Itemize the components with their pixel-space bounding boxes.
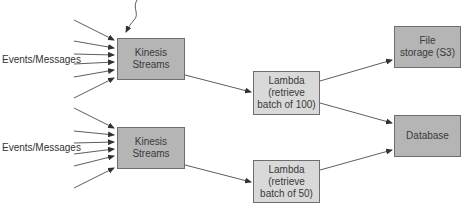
kinesis-streams-node-1: Kinesis Streams [117, 38, 185, 80]
lambda-node-2: Lambda (retrieve batch of 50) [253, 160, 320, 203]
events-messages-label-2: Events/Messages [2, 142, 81, 153]
kinesis-streams-node-2: Kinesis Streams [117, 127, 185, 169]
file-storage-label: File storage (S3) [400, 35, 455, 59]
database-label: Database [406, 130, 449, 142]
lambda-label-2: Lambda (retrieve batch of 50) [260, 164, 313, 200]
kinesis-streams-label-1: Kinesis Streams [132, 47, 169, 71]
lambda-node-1: Lambda (retrieve batch of 100) [253, 71, 320, 115]
kinesis-streams-label-2: Kinesis Streams [132, 136, 169, 160]
connector-layer [0, 0, 462, 204]
curly-arrow [126, 0, 137, 32]
database-node: Database [394, 115, 461, 157]
lambda-label-1: Lambda (retrieve batch of 100) [257, 75, 315, 111]
events-messages-label-1: Events/Messages [2, 54, 81, 65]
file-storage-s3-node: File storage (S3) [394, 26, 461, 68]
